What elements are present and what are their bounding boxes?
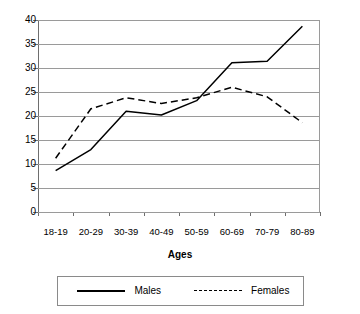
y-tick-label: 10 (0, 159, 36, 169)
chart-legend: MalesFemales (57, 276, 304, 306)
legend-label: Males (134, 286, 161, 296)
legend-swatch-males (77, 286, 125, 296)
y-tick-label: 40 (0, 15, 36, 25)
line-chart: 0510152025303540 18-1920-2930-3940-4950-… (0, 0, 360, 314)
x-tick-label: 80-89 (279, 227, 325, 237)
legend-label: Females (251, 286, 289, 296)
y-tick-label: 25 (0, 87, 36, 97)
legend-swatch-females (194, 286, 242, 296)
plot-area (38, 20, 320, 212)
legend-entry-males[interactable]: Males (58, 286, 181, 296)
legend-entry-females[interactable]: Females (181, 286, 304, 296)
y-tick-label: 20 (0, 111, 36, 121)
y-tick-label: 5 (0, 183, 36, 193)
y-tick-label: 30 (0, 63, 36, 73)
y-tick-label: 0 (0, 207, 36, 217)
x-tick-mark (320, 212, 321, 216)
series-line-males (56, 26, 303, 170)
gridline (38, 212, 320, 213)
y-tick-label: 15 (0, 135, 36, 145)
y-tick-label: 35 (0, 39, 36, 49)
x-axis-title: Ages (0, 249, 360, 260)
series-lines (38, 20, 320, 212)
